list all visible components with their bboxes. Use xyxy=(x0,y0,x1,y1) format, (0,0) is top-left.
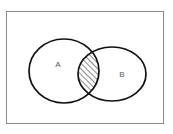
set-a-label: A xyxy=(55,60,61,69)
venn-diagram-figure: A B xyxy=(0,0,173,134)
set-b-label: B xyxy=(119,70,124,79)
venn-diagram-canvas: A B xyxy=(0,0,173,134)
